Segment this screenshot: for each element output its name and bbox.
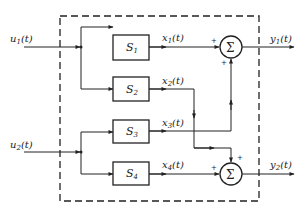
signal-x3: x3(t)	[149, 59, 231, 131]
signal-x1: x1(t)	[149, 32, 219, 47]
svg-text:y1(t): y1(t)	[269, 33, 292, 46]
sigma-icon: Σ	[226, 41, 234, 55]
block-s1: S1	[113, 35, 149, 60]
svg-text:x2(t): x2(t)	[162, 75, 184, 88]
svg-text:+: +	[237, 154, 243, 162]
svg-text:u2(t): u2(t)	[10, 139, 33, 152]
svg-text:+: +	[211, 164, 217, 172]
block-s4: S4	[113, 162, 149, 185]
summing-junction-1: Σ + +	[211, 36, 242, 67]
input-u2: u2(t)	[10, 132, 113, 174]
svg-text:+: +	[221, 59, 227, 67]
svg-text:x3(t): x3(t)	[162, 117, 184, 130]
output-y1: y1(t)	[242, 33, 294, 47]
block-s3: S3	[113, 120, 149, 143]
input-u1: u1(t)	[10, 27, 113, 89]
svg-text:+: +	[211, 37, 217, 45]
block-s2: S2	[113, 77, 149, 101]
svg-text:y2(t): y2(t)	[269, 159, 292, 172]
svg-text:u1(t): u1(t)	[10, 33, 33, 46]
svg-text:x4(t): x4(t)	[162, 159, 184, 172]
sigma-icon: Σ	[226, 168, 234, 182]
output-y2: y2(t)	[242, 159, 294, 174]
svg-text:x1(t): x1(t)	[162, 32, 184, 45]
signal-x4: x4(t)	[149, 159, 219, 174]
summing-junction-2: Σ + +	[211, 154, 243, 185]
mimo-block-diagram: u1(t) u2(t) S1 S2 S3 S4 x1(t)	[0, 0, 306, 215]
